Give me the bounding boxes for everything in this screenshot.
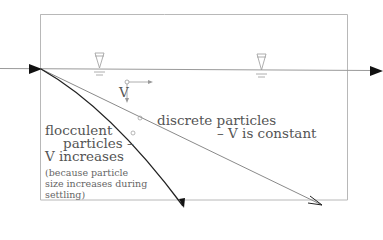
flocculent-label-line3: V increases [45, 150, 124, 164]
velocity-label: V [119, 86, 129, 100]
note-line3: settling) [45, 190, 85, 200]
water-level-marker-icon [256, 54, 267, 77]
flow-line [0, 69, 372, 71]
note-line1: (because particle [45, 168, 128, 178]
water-level-marker-icon [94, 53, 105, 75]
discrete-label-line2: – V is constant [217, 127, 317, 141]
velocity-vector-icon [125, 80, 153, 103]
outlet-arrow-icon [370, 66, 383, 76]
note-line2: size increases during [45, 179, 147, 189]
